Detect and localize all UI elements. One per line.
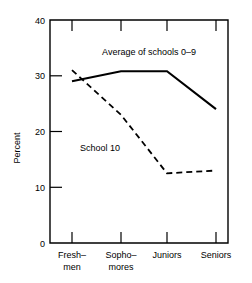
y-axis-labels: 40 30 20 10 0 — [35, 16, 45, 249]
y-tick-label-0: 0 — [40, 239, 45, 249]
annotation-school-10: School 10 — [80, 143, 120, 153]
y-tick-label-40: 40 — [35, 16, 45, 26]
line-chart: 40 30 20 10 0 Percent Fresh– men Sopho– — [0, 0, 252, 283]
series-line-average-of-schools — [72, 71, 216, 109]
category-label-sophomores-line2: mores — [108, 262, 134, 272]
series-line-school-10 — [72, 70, 216, 173]
x-axis-category-labels: Fresh– men Sopho– mores Juniors Seniors — [58, 250, 232, 272]
x-axis-bottom-ticks — [72, 232, 216, 243]
category-label-sophomores-line1: Sopho– — [105, 250, 136, 260]
category-label-juniors: Juniors — [152, 250, 182, 260]
y-tick-label-20: 20 — [35, 127, 45, 137]
x-axis-top-ticks — [72, 20, 216, 31]
y-tick-label-10: 10 — [35, 183, 45, 193]
y-tick-label-30: 30 — [35, 71, 45, 81]
category-label-seniors: Seniors — [201, 250, 232, 260]
y-axis-title: Percent — [12, 132, 22, 164]
annotation-average-of-schools: Average of schools 0–9 — [102, 47, 196, 57]
y-axis-ticks — [50, 76, 62, 188]
category-label-freshmen-line2: men — [63, 262, 81, 272]
category-label-freshmen-line1: Fresh– — [58, 250, 86, 260]
chart-container: 40 30 20 10 0 Percent Fresh– men Sopho– — [0, 0, 252, 283]
